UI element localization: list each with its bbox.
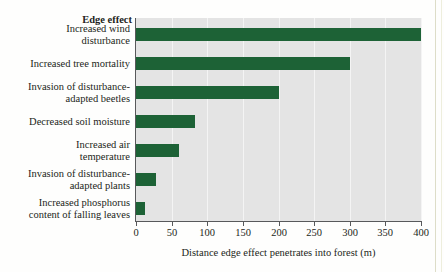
x-tick-mark (350, 222, 351, 226)
chart-figure: Edge effect Increased winddisturbanceInc… (0, 0, 444, 272)
gridline (314, 18, 315, 221)
x-tick-label: 250 (294, 227, 334, 238)
bar (136, 86, 279, 99)
page-edge-line-outer (441, 0, 442, 272)
x-tick-mark (207, 222, 208, 226)
x-tick-mark (243, 222, 244, 226)
y-axis-line (135, 18, 136, 221)
x-axis-title: Distance edge effect penetrates into for… (136, 247, 421, 258)
x-tick-mark (421, 222, 422, 226)
category-label-line: Increased tree mortality (0, 58, 130, 70)
category-label-line: Decreased soil moisture (0, 116, 130, 128)
category-label: Increased tree mortality (0, 58, 130, 70)
category-label-line: Increased wind (0, 23, 130, 35)
category-label-line: disturbance (0, 35, 130, 47)
category-label-line: adapted beetles (0, 93, 130, 105)
bar (136, 57, 350, 70)
x-tick-mark (279, 222, 280, 226)
category-label: Decreased soil moisture (0, 116, 130, 128)
category-label-line: content of falling leaves (0, 209, 130, 221)
bar (136, 202, 145, 215)
gridline (243, 18, 244, 221)
x-tick-label: 400 (401, 227, 441, 238)
category-label: Invasion of disturbance-adapted plants (0, 168, 130, 191)
gridline (207, 18, 208, 221)
category-label: Increased airtemperature (0, 139, 130, 162)
x-tick-label: 0 (116, 227, 156, 238)
x-tick-label: 300 (330, 227, 370, 238)
category-label: Invasion of disturbance-adapted beetles (0, 81, 130, 104)
plot-area (136, 18, 421, 221)
gridline (350, 18, 351, 221)
category-label: Increased winddisturbance (0, 23, 130, 46)
x-tick-mark (172, 222, 173, 226)
gridline (421, 18, 422, 221)
category-label-line: Increased air (0, 139, 130, 151)
category-label-column: Increased winddisturbanceIncreased tree … (0, 18, 134, 218)
gridline (385, 18, 386, 221)
category-label-line: temperature (0, 151, 130, 163)
category-label-line: Invasion of disturbance- (0, 81, 130, 93)
bar (136, 144, 179, 157)
x-tick-label: 200 (259, 227, 299, 238)
category-label-line: Increased phosphorus (0, 197, 130, 209)
category-label-line: Invasion of disturbance- (0, 168, 130, 180)
x-tick-label: 350 (365, 227, 405, 238)
bar (136, 115, 195, 128)
category-label-line: adapted plants (0, 180, 130, 192)
category-label: Increased phosphoruscontent of falling l… (0, 197, 130, 220)
x-tick-label: 150 (223, 227, 263, 238)
x-tick-mark (385, 222, 386, 226)
x-tick-mark (314, 222, 315, 226)
gridline (279, 18, 280, 221)
bar (136, 28, 421, 41)
x-tick-label: 100 (187, 227, 227, 238)
x-tick-label: 50 (152, 227, 192, 238)
bar (136, 173, 156, 186)
x-tick-mark (136, 222, 137, 226)
